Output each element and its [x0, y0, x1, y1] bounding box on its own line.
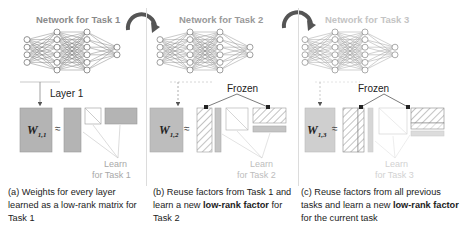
approx-symbol: ≈ — [55, 123, 61, 134]
frozen-label: Frozen — [227, 83, 258, 94]
learn-label: Learn — [104, 159, 127, 169]
layer-label: Layer 1 — [50, 88, 83, 99]
caption-a: (a) Weights for every layer learned as a… — [8, 186, 138, 225]
learn-task-label: for Task 2 — [237, 170, 276, 180]
matrix-label: W1,3 — [307, 123, 326, 139]
matrix-label: W1,2 — [159, 123, 178, 139]
frozen-label: Frozen — [358, 83, 389, 94]
approx-symbol: ≈ — [332, 123, 338, 134]
learn-task-label: for Task 1 — [92, 170, 131, 180]
network-title: Network for Task 2 — [179, 14, 263, 25]
network-title: Network for Task 3 — [325, 14, 409, 25]
learn-label: Learn — [250, 159, 273, 169]
panel-a: Network for Task 1 Layer 1 W1,1 ≈ Learn … — [0, 0, 146, 233]
approx-symbol: ≈ — [184, 123, 190, 134]
matrix-label: W1,1 — [27, 123, 46, 139]
panel-b: Network for Task 2 Frozen W1,2 ≈ Learn f… — [147, 0, 298, 233]
caption-c: (c) Reuse factors from all previous task… — [301, 186, 461, 225]
network-title: Network for Task 1 — [36, 14, 120, 25]
learn-task-label: for Task 3 — [375, 170, 414, 180]
learn-label: Learn — [385, 159, 408, 169]
panel-c: Network for Task 3 Frozen W1,3 ≈ Learn f… — [299, 0, 462, 233]
caption-b: (b) Reuse factors from Task 1 and learn … — [153, 186, 293, 225]
